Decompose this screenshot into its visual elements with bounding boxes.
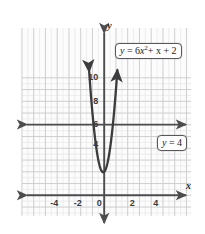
graph-figure: -4 -2 0 2 4 4 6 8 10 x y y = 6x2+ x + 2 … (0, 0, 205, 234)
line-eq-tail: = 4 (166, 137, 182, 148)
line-equation-callout: y = 4 (157, 135, 187, 151)
y-tick-label-6: 6 (93, 120, 98, 129)
x-tick-label-2: 2 (130, 199, 135, 208)
y-tick-label-8: 8 (93, 97, 98, 106)
y-tick-label-10: 10 (88, 73, 98, 82)
y-tick-label-4: 4 (93, 140, 98, 149)
x-tick-label-minus4: -4 (50, 199, 58, 208)
curve-equation-callout: y = 6x2+ x + 2 (115, 43, 182, 59)
x-tick-label-origin: 0 (97, 199, 102, 208)
curve-eq-tail: + x + 2 (148, 45, 177, 56)
y-axis-name: y (107, 21, 111, 31)
coordinate-plane-svg (0, 0, 205, 234)
x-tick-label-minus2: -2 (74, 199, 82, 208)
x-axis-name: x (186, 181, 191, 191)
x-tick-label-4: 4 (153, 199, 158, 208)
curve-eq-mid: = 6 (124, 45, 140, 56)
